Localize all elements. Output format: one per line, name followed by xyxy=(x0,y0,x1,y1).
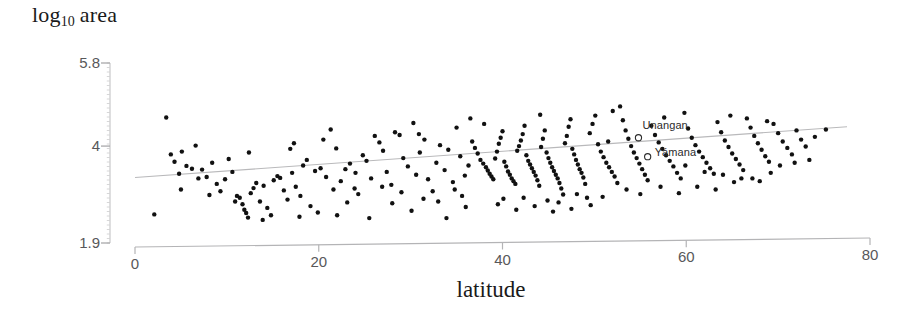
data-point xyxy=(541,136,545,140)
data-point xyxy=(601,155,605,159)
y-tick-label: 4 xyxy=(54,137,100,154)
data-point xyxy=(645,178,649,182)
data-point xyxy=(790,152,794,156)
data-point xyxy=(184,164,188,168)
data-point xyxy=(331,187,335,191)
data-point xyxy=(301,163,305,167)
data-point xyxy=(730,151,734,155)
data-point xyxy=(559,186,563,190)
data-point xyxy=(521,132,525,136)
data-point xyxy=(385,170,389,174)
data-point xyxy=(555,176,559,180)
data-point xyxy=(517,144,521,148)
data-point xyxy=(288,147,292,151)
data-point xyxy=(643,172,647,176)
data-point xyxy=(294,184,298,188)
data-point xyxy=(702,170,706,174)
data-point xyxy=(393,130,397,134)
data-point xyxy=(230,170,234,174)
data-point xyxy=(496,202,500,206)
data-point xyxy=(615,181,619,185)
data-point xyxy=(623,128,627,132)
data-point xyxy=(572,152,576,156)
data-point xyxy=(246,215,250,219)
data-point xyxy=(621,118,625,122)
data-point xyxy=(677,191,681,195)
data-point xyxy=(460,194,464,198)
x-tick-label: 60 xyxy=(666,248,706,265)
data-point xyxy=(611,109,615,113)
data-point xyxy=(732,180,736,184)
data-point xyxy=(321,137,325,141)
data-point xyxy=(612,174,616,178)
data-point xyxy=(409,208,413,212)
data-point xyxy=(721,172,725,176)
data-point xyxy=(759,148,763,152)
data-point xyxy=(305,158,309,162)
data-point xyxy=(380,184,384,188)
data-point xyxy=(249,191,253,195)
data-point xyxy=(454,125,458,129)
data-point xyxy=(451,180,455,184)
data-point xyxy=(690,136,694,140)
data-point xyxy=(606,139,610,143)
y-axis-title-tail: area xyxy=(80,2,117,27)
data-point xyxy=(254,181,258,185)
data-point xyxy=(719,130,723,134)
data-point xyxy=(752,134,756,138)
data-point xyxy=(436,199,440,203)
data-point xyxy=(204,175,208,179)
annotation-label-1: Unangan xyxy=(642,119,687,131)
data-point xyxy=(532,204,536,208)
data-point xyxy=(813,135,817,139)
annotation-markers xyxy=(635,135,650,160)
scatter-plot-figure: log10area latitude 5.841.9020406080 Unan… xyxy=(0,0,898,316)
data-point xyxy=(513,182,517,186)
data-point xyxy=(348,161,352,165)
data-point xyxy=(575,192,579,196)
data-point xyxy=(668,159,672,163)
data-point xyxy=(590,122,594,126)
trend-line xyxy=(135,127,847,178)
data-point xyxy=(514,208,518,212)
data-point xyxy=(196,176,200,180)
data-point xyxy=(463,173,467,177)
data-point xyxy=(434,160,438,164)
data-point xyxy=(152,212,156,216)
data-point xyxy=(593,113,597,117)
data-point xyxy=(414,172,418,176)
data-point xyxy=(265,206,269,210)
data-point xyxy=(637,161,641,165)
data-point xyxy=(438,143,442,147)
data-point xyxy=(285,197,289,201)
data-point xyxy=(583,182,587,186)
annotated-point-marker xyxy=(635,135,641,141)
data-point xyxy=(585,196,589,200)
axes-group xyxy=(101,63,870,254)
data-point xyxy=(244,211,248,215)
data-point xyxy=(682,111,686,115)
data-point xyxy=(417,132,421,136)
data-point xyxy=(566,124,570,128)
data-point xyxy=(261,218,265,222)
data-point xyxy=(207,193,211,197)
data-point xyxy=(599,149,603,153)
data-point xyxy=(596,142,600,146)
data-point xyxy=(679,176,683,180)
data-point xyxy=(737,162,741,166)
data-point xyxy=(557,181,561,185)
data-point xyxy=(568,117,572,121)
data-point xyxy=(466,163,470,167)
data-point xyxy=(723,138,727,142)
data-point xyxy=(640,167,644,171)
data-point xyxy=(713,187,717,191)
data-point xyxy=(522,124,526,128)
data-point xyxy=(634,156,638,160)
data-point xyxy=(544,150,548,154)
data-point xyxy=(261,184,265,188)
data-point xyxy=(238,196,242,200)
data-point xyxy=(785,146,789,150)
data-point xyxy=(778,163,782,167)
data-point xyxy=(335,213,339,217)
data-point xyxy=(493,156,497,160)
